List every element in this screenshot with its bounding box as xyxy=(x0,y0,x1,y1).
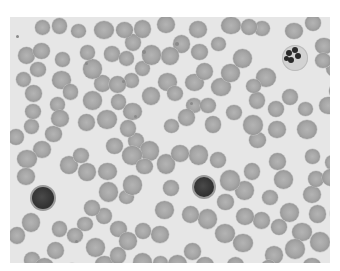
red-blood-cell xyxy=(221,17,240,34)
neutrophil xyxy=(282,45,308,71)
red-blood-cell xyxy=(73,148,89,163)
red-blood-cell xyxy=(52,18,67,34)
red-blood-cell xyxy=(269,153,286,171)
red-blood-cell xyxy=(17,150,36,168)
red-blood-cell xyxy=(315,53,330,68)
red-blood-cell xyxy=(123,175,142,194)
neutrophil-nucleus-lobe xyxy=(288,57,294,63)
red-blood-cell xyxy=(116,22,134,38)
red-blood-cell xyxy=(167,86,183,101)
red-blood-cell xyxy=(86,238,106,257)
red-blood-cell xyxy=(233,49,252,68)
red-blood-cell xyxy=(110,247,126,263)
red-blood-cell xyxy=(83,91,103,110)
red-blood-cell xyxy=(285,239,305,259)
red-blood-cell xyxy=(151,226,168,243)
red-blood-cell xyxy=(168,255,187,263)
red-blood-cell xyxy=(215,224,235,243)
red-blood-cell xyxy=(305,149,321,164)
red-blood-cell xyxy=(84,200,101,216)
red-blood-cell xyxy=(136,159,153,175)
red-blood-cell xyxy=(99,182,118,202)
platelet xyxy=(85,62,88,65)
platelet xyxy=(142,50,146,54)
red-blood-cell xyxy=(155,201,174,219)
red-blood-cell xyxy=(33,43,51,59)
red-blood-cell xyxy=(184,243,201,260)
platelet xyxy=(190,102,193,105)
red-blood-cell xyxy=(25,104,41,119)
red-blood-cell xyxy=(35,258,54,263)
red-blood-cell xyxy=(17,168,35,185)
red-blood-cell xyxy=(142,87,160,105)
red-blood-cell xyxy=(123,103,142,120)
red-blood-cell xyxy=(24,119,39,134)
red-blood-cell xyxy=(305,17,321,31)
red-blood-cell xyxy=(309,205,326,223)
red-blood-cell xyxy=(119,232,137,250)
red-blood-cell xyxy=(325,155,330,170)
red-blood-cell xyxy=(25,85,42,102)
red-blood-cell xyxy=(196,63,213,80)
red-blood-cell xyxy=(244,163,260,179)
red-blood-cell xyxy=(249,92,265,109)
red-blood-cell xyxy=(322,169,331,187)
red-blood-cell xyxy=(109,76,126,93)
red-blood-cell xyxy=(124,73,139,87)
red-blood-cell xyxy=(97,110,116,129)
lymphocyte xyxy=(30,185,56,211)
red-blood-cell xyxy=(271,219,287,235)
red-blood-cell xyxy=(191,44,208,60)
red-blood-cell xyxy=(189,145,209,165)
red-blood-cell xyxy=(16,72,31,87)
red-blood-cell xyxy=(189,21,207,38)
red-blood-cell xyxy=(63,84,79,99)
red-blood-cell xyxy=(210,152,226,168)
red-blood-cell xyxy=(227,257,244,263)
red-blood-cell xyxy=(182,206,200,224)
red-blood-cell xyxy=(268,101,284,117)
red-blood-cell xyxy=(78,114,95,131)
red-blood-cell xyxy=(178,109,195,126)
red-blood-cell xyxy=(211,37,226,51)
red-blood-cell xyxy=(52,221,68,237)
red-blood-cell xyxy=(10,129,24,146)
red-blood-cell xyxy=(217,194,233,211)
red-blood-cell xyxy=(233,234,253,253)
red-blood-cell xyxy=(285,23,303,39)
red-blood-cell xyxy=(98,163,117,180)
red-blood-cell xyxy=(268,121,286,138)
neutrophil-nucleus-lobe xyxy=(284,56,289,61)
red-blood-cell xyxy=(236,208,254,225)
red-blood-cell xyxy=(161,47,179,65)
red-blood-cell xyxy=(205,116,221,132)
red-blood-cell xyxy=(246,79,261,93)
red-blood-cell xyxy=(142,45,161,65)
red-blood-cell xyxy=(274,170,294,190)
red-blood-cell xyxy=(55,52,70,67)
red-blood-cell xyxy=(106,138,123,154)
red-blood-cell xyxy=(164,119,180,133)
platelet xyxy=(175,42,179,46)
red-blood-cell xyxy=(135,223,151,239)
red-blood-cell xyxy=(35,20,50,35)
red-blood-cell xyxy=(153,256,169,263)
neutrophil-nucleus-lobe xyxy=(295,53,301,59)
red-blood-cell xyxy=(220,170,240,190)
blood-smear-image xyxy=(10,17,330,263)
red-blood-cell xyxy=(78,163,96,181)
red-blood-cell xyxy=(104,46,121,61)
red-blood-cell xyxy=(45,126,62,141)
red-blood-cell xyxy=(282,89,298,105)
red-blood-cell xyxy=(51,110,69,127)
red-blood-cell xyxy=(171,145,189,162)
red-blood-cell xyxy=(196,257,213,263)
lymphocyte xyxy=(192,175,216,199)
platelet xyxy=(75,240,78,243)
red-blood-cell xyxy=(319,97,330,115)
red-blood-cell xyxy=(226,105,242,120)
red-blood-cell xyxy=(30,62,45,77)
red-blood-cell xyxy=(200,98,215,113)
red-blood-cell xyxy=(262,190,278,205)
red-blood-cell xyxy=(243,115,263,135)
